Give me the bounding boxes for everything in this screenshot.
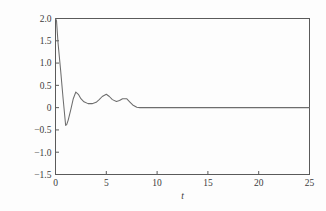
- y-tick-label: −1.0: [34, 148, 51, 158]
- y-tick-label: 2.0: [40, 14, 52, 24]
- x-tick-label: 25: [305, 178, 315, 188]
- x-tick-label: 20: [254, 178, 264, 188]
- x-tick-label: 5: [104, 178, 109, 188]
- y-tick-label: 1.5: [40, 36, 52, 46]
- y-tick-label: −1.5: [34, 170, 51, 180]
- y-tick-label: 0: [47, 103, 52, 113]
- x-tick-label: 10: [152, 178, 162, 188]
- y-tick-label: 0.5: [40, 81, 52, 91]
- y-tick-label: 1.0: [40, 58, 52, 68]
- y-tick-label: −0.5: [34, 125, 51, 135]
- figure-container: 状态 x1(t) −1.5−1.0−0.500.51.01.52.0 05101…: [0, 0, 326, 211]
- x-tick-label: 15: [203, 178, 213, 188]
- x-axis-label: t: [181, 191, 184, 201]
- x-tick-label: 0: [53, 178, 58, 188]
- chart-plot: −1.5−1.0−0.500.51.01.52.0 0510152025 t: [0, 0, 326, 211]
